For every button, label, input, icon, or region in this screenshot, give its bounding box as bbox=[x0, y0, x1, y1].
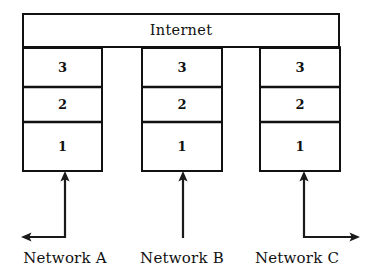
network-b-label: Network B bbox=[117, 251, 247, 266]
stack-b-layer-2-label: 2 bbox=[141, 98, 223, 111]
network-c-label: Network C bbox=[232, 251, 362, 266]
stack-c-layer-3-label: 3 bbox=[259, 61, 341, 74]
connector-network-a bbox=[21, 171, 70, 242]
internet-label: Internet bbox=[0, 23, 362, 38]
stack-c-layer-1-label: 1 bbox=[259, 140, 341, 153]
connector-network-b bbox=[178, 171, 187, 238]
connector-c-path bbox=[304, 179, 356, 237]
stack-a-layer-2-label: 2 bbox=[22, 98, 103, 111]
network-a-label: Network A bbox=[0, 251, 130, 266]
connector-network-c bbox=[299, 171, 360, 242]
stack-b-layer-1-label: 1 bbox=[141, 140, 223, 153]
stack-c-layer-2-label: 2 bbox=[259, 98, 341, 111]
protocol-stack-diagram: Internet 3 2 1 3 2 1 3 2 1 Network A Net… bbox=[0, 0, 373, 280]
stack-a-layer-1-label: 1 bbox=[22, 140, 103, 153]
connector-a-path bbox=[25, 179, 65, 237]
stack-b-layer-3-label: 3 bbox=[141, 61, 223, 74]
stack-a-layer-3-label: 3 bbox=[22, 61, 103, 74]
